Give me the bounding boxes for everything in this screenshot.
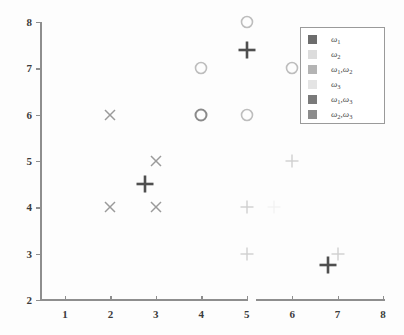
marker-plus-light xyxy=(285,154,300,169)
marker-plus-light xyxy=(239,200,254,215)
x-tick xyxy=(201,296,202,301)
y-tick-label: 6 xyxy=(2,109,32,121)
legend-swatch xyxy=(308,65,317,74)
marker-o xyxy=(239,107,254,122)
y-tick-label: 8 xyxy=(2,16,32,28)
x-tick xyxy=(338,296,339,301)
legend-row: ω2,ω3 xyxy=(301,107,384,122)
marker-o xyxy=(194,61,209,76)
legend-label: ω1,ω2 xyxy=(331,65,352,74)
x-tick xyxy=(110,296,111,301)
legend-label: ω2 xyxy=(331,50,341,59)
legend-swatch xyxy=(308,35,317,44)
x-tick-label: 8 xyxy=(380,308,386,320)
x-axis-line-left xyxy=(40,299,248,301)
y-tick xyxy=(36,161,41,162)
marker-o xyxy=(285,61,300,76)
y-tick-label: 2 xyxy=(2,294,32,306)
marker-plus-bold xyxy=(237,40,256,59)
marker-plus-light xyxy=(266,200,281,215)
legend-label: ω3 xyxy=(331,80,341,89)
legend-label: ω2,ω3 xyxy=(331,110,352,119)
y-tick xyxy=(36,22,41,23)
x-tick-label: 2 xyxy=(108,308,114,320)
legend-label: ω1,ω3 xyxy=(331,95,352,104)
legend-swatch xyxy=(308,110,317,119)
x-tick xyxy=(156,296,157,301)
legend-row: ω3 xyxy=(301,77,384,92)
x-tick-label: 7 xyxy=(335,308,341,320)
legend-label: ω1 xyxy=(331,35,341,44)
y-tick-label: 3 xyxy=(2,248,32,260)
y-tick xyxy=(36,254,41,255)
y-tick xyxy=(36,68,41,69)
marker-x xyxy=(104,108,117,121)
marker-x xyxy=(104,201,117,214)
x-tick-label: 4 xyxy=(199,308,205,320)
marker-o xyxy=(194,107,209,122)
marker-x xyxy=(149,201,162,214)
x-tick-label: 6 xyxy=(289,308,295,320)
marker-plus-bold xyxy=(319,256,338,275)
y-tick-label: 5 xyxy=(2,155,32,167)
marker-plus-light xyxy=(239,246,254,261)
y-tick xyxy=(36,300,41,301)
legend-row: ω2 xyxy=(301,47,384,62)
legend-swatch xyxy=(308,80,317,89)
x-tick xyxy=(383,296,384,301)
legend-swatch xyxy=(308,50,317,59)
x-tick-label: 1 xyxy=(62,308,68,320)
x-tick xyxy=(292,296,293,301)
x-axis-line-right xyxy=(256,299,385,301)
legend-row: ω1 xyxy=(301,32,384,47)
marker-plus-light xyxy=(330,246,345,261)
x-tick-label: 5 xyxy=(244,308,250,320)
x-tick xyxy=(247,296,248,301)
chart-page: 2345678 12345678 ω1ω2ω1,ω2ω3ω1,ω3ω2,ω3 xyxy=(0,0,404,335)
marker-o xyxy=(239,15,254,30)
legend-row: ω1,ω3 xyxy=(301,92,384,107)
y-tick-label: 7 xyxy=(2,62,32,74)
y-tick xyxy=(36,115,41,116)
x-tick xyxy=(65,296,66,301)
legend-row: ω1,ω2 xyxy=(301,62,384,77)
marker-plus-bold xyxy=(135,175,154,194)
x-tick-label: 3 xyxy=(153,308,159,320)
legend-swatch xyxy=(308,95,317,104)
y-tick xyxy=(36,207,41,208)
marker-x xyxy=(149,155,162,168)
legend: ω1ω2ω1,ω2ω3ω1,ω3ω2,ω3 xyxy=(300,27,385,124)
y-tick-label: 4 xyxy=(2,201,32,213)
